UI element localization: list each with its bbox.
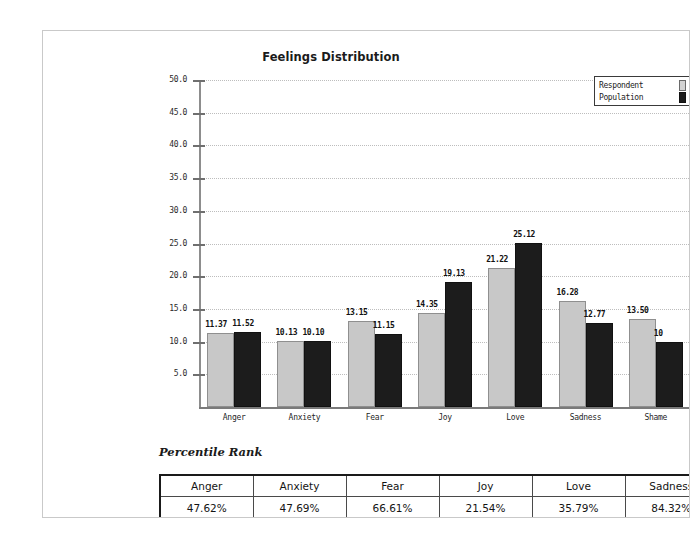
y-axis-tick-label: 45.0 bbox=[143, 108, 187, 117]
table-cell-sadness-percentile: 84.32% bbox=[625, 497, 690, 519]
bar-value-label: 19.13 bbox=[443, 269, 465, 278]
gridline bbox=[199, 211, 690, 212]
y-axis-tick-label: 5.0 bbox=[143, 369, 187, 378]
bar-anxiety-respondent bbox=[277, 341, 304, 407]
legend-swatch-population-icon bbox=[679, 92, 686, 103]
x-axis-label-anger: Anger bbox=[199, 413, 269, 422]
table-cell-love-percentile: 35.79% bbox=[532, 497, 625, 519]
y-axis-tick-mark bbox=[193, 113, 205, 115]
bar-value-label: 12.77 bbox=[584, 310, 606, 319]
table-cell-anger-percentile: 47.62% bbox=[160, 497, 253, 519]
bar-value-label: 11.37 bbox=[205, 320, 227, 329]
y-axis-tick-label: 30.0 bbox=[143, 206, 187, 215]
y-axis-tick-mark bbox=[193, 145, 205, 147]
table-cell-joy-percentile: 21.54% bbox=[439, 497, 532, 519]
legend-item-respondent: Respondent bbox=[599, 79, 686, 91]
table-column-header-anxiety: Anxiety bbox=[253, 475, 346, 497]
bar-anxiety-population bbox=[304, 341, 331, 407]
x-axis-label-sadness: Sadness bbox=[550, 413, 620, 422]
y-axis-tick-mark bbox=[193, 276, 205, 278]
y-axis-tick-label: 15.0 bbox=[143, 304, 187, 313]
bar-value-label: 13.50 bbox=[627, 306, 649, 315]
y-axis-tick-mark bbox=[193, 244, 205, 246]
bar-joy-respondent bbox=[418, 313, 445, 407]
bar-fear-population bbox=[375, 334, 402, 407]
report-page-sheet: Feelings Distribution Respondent Populat… bbox=[42, 30, 690, 518]
table-cell-anxiety-percentile: 47.69% bbox=[253, 497, 346, 519]
table-header-row: AngerAnxietyFearJoyLoveSadness bbox=[160, 475, 690, 497]
bar-value-label: 10.10 bbox=[302, 328, 324, 337]
bar-value-label: 25.12 bbox=[513, 230, 535, 239]
y-axis-tick-mark bbox=[193, 374, 205, 376]
table-column-header-fear: Fear bbox=[346, 475, 439, 497]
bar-value-label: 21.22 bbox=[486, 255, 508, 264]
bar-anger-respondent bbox=[207, 333, 234, 407]
bar-value-label: 11.15 bbox=[373, 321, 395, 330]
x-axis-line bbox=[199, 407, 690, 409]
bar-sadness-population bbox=[586, 323, 613, 407]
y-axis-tick-label: 40.0 bbox=[143, 140, 187, 149]
y-axis-tick-label: 25.0 bbox=[143, 239, 187, 248]
bar-sadness-respondent bbox=[559, 301, 586, 407]
y-axis-tick-label: 50.0 bbox=[143, 75, 187, 84]
bar-value-label: 10 bbox=[654, 329, 663, 338]
percentile-rank-heading: Percentile Rank bbox=[159, 445, 262, 459]
y-axis-tick-mark bbox=[193, 178, 205, 180]
bar-joy-population bbox=[445, 282, 472, 407]
gridline bbox=[199, 244, 690, 245]
bar-value-label: 11.52 bbox=[232, 319, 254, 328]
bar-value-label: 10.13 bbox=[275, 328, 297, 337]
table-column-header-joy: Joy bbox=[439, 475, 532, 497]
bar-shame-population bbox=[656, 342, 683, 407]
gridline bbox=[199, 178, 690, 179]
x-axis-label-fear: Fear bbox=[340, 413, 410, 422]
percentile-rank-table: AngerAnxietyFearJoyLoveSadness 47.62%47.… bbox=[159, 474, 690, 518]
legend-label-respondent: Respondent bbox=[599, 81, 643, 90]
bar-love-population bbox=[515, 243, 542, 407]
x-axis-label-shame: Shame bbox=[621, 413, 690, 422]
y-axis-tick-label: 10.0 bbox=[143, 337, 187, 346]
table-cell-fear-percentile: 66.61% bbox=[346, 497, 439, 519]
gridline bbox=[199, 113, 690, 114]
feelings-distribution-chart: Feelings Distribution Respondent Populat… bbox=[43, 31, 690, 436]
legend-label-population: Population bbox=[599, 93, 643, 102]
y-axis-tick-mark bbox=[193, 211, 205, 213]
table-column-header-anger: Anger bbox=[160, 475, 253, 497]
y-axis-tick-mark bbox=[193, 80, 205, 82]
chart-legend: Respondent Population bbox=[594, 76, 690, 106]
bar-value-label: 13.15 bbox=[346, 308, 368, 317]
bar-anger-population bbox=[234, 332, 261, 407]
bar-value-label: 16.28 bbox=[557, 288, 579, 297]
x-axis-label-anxiety: Anxiety bbox=[269, 413, 339, 422]
bar-fear-respondent bbox=[348, 321, 375, 407]
table-row: 47.62%47.69%66.61%21.54%35.79%84.32% bbox=[160, 497, 690, 519]
table-column-header-sadness: Sadness bbox=[625, 475, 690, 497]
chart-plot-area bbox=[199, 80, 690, 407]
y-axis-tick-label: 20.0 bbox=[143, 271, 187, 280]
bar-love-respondent bbox=[488, 268, 515, 407]
table-column-header-love: Love bbox=[532, 475, 625, 497]
bar-value-label: 14.35 bbox=[416, 300, 438, 309]
y-axis-tick-mark bbox=[193, 309, 205, 311]
gridline bbox=[199, 145, 690, 146]
legend-item-population: Population bbox=[599, 91, 686, 103]
x-axis-label-love: Love bbox=[480, 413, 550, 422]
x-axis-label-joy: Joy bbox=[410, 413, 480, 422]
legend-swatch-respondent-icon bbox=[679, 80, 686, 91]
y-axis-tick-mark bbox=[193, 342, 205, 344]
y-axis-tick-label: 35.0 bbox=[143, 173, 187, 182]
chart-title: Feelings Distribution bbox=[43, 50, 619, 64]
bar-shame-respondent bbox=[629, 319, 656, 407]
